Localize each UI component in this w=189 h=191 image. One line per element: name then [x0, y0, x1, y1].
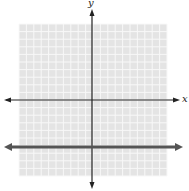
y-axis-up-arrow-icon [90, 9, 95, 16]
x-axis-left-arrow-icon [4, 98, 11, 103]
line-right-arrow-icon [175, 143, 183, 151]
y-axis-label: y [88, 0, 94, 8]
x-axis-right-arrow-icon [173, 98, 180, 103]
coordinate-plane [0, 0, 189, 191]
line-left-arrow-icon [4, 143, 12, 151]
x-axis-label: x [182, 93, 188, 104]
y-axis-down-arrow-icon [90, 182, 95, 189]
